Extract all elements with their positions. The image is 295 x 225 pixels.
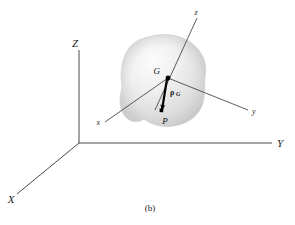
body-axis-y-label: y	[251, 107, 256, 116]
point-G-marker	[166, 76, 171, 81]
global-axis-Y-label: Y	[277, 137, 285, 149]
figure-container: Z Y X z y x ρ G G P	[0, 0, 295, 225]
global-axis-X-label: X	[7, 193, 16, 205]
global-axis-Z-label: Z	[72, 37, 79, 49]
rho-G-symbol-label: ρ	[170, 88, 174, 97]
blob-outline	[120, 34, 206, 126]
point-G-label: G	[154, 66, 161, 76]
point-P-marker	[160, 109, 164, 113]
body-axis-z-label: z	[193, 8, 198, 17]
rigid-body-blob	[120, 34, 206, 126]
global-axis-X-line	[17, 143, 79, 194]
rho-G-subscript-label: G	[176, 91, 181, 97]
figure-caption: (b)	[145, 203, 156, 213]
point-P-label: P	[161, 116, 168, 126]
rigid-body-diagram: Z Y X z y x ρ G G P	[0, 0, 295, 225]
body-axis-x-label: x	[95, 118, 100, 127]
